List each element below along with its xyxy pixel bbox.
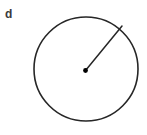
center-point-dot <box>83 68 88 73</box>
radius-line <box>86 26 123 71</box>
circle-radius-diagram <box>0 0 147 135</box>
figure-container: d <box>0 0 147 135</box>
